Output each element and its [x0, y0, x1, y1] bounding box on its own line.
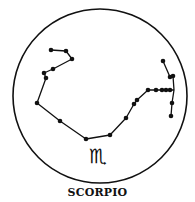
star-icon — [64, 49, 69, 54]
star-points — [35, 48, 176, 142]
star-icon — [169, 114, 174, 119]
star-icon — [171, 74, 176, 79]
star-icon — [160, 88, 165, 93]
star-icon — [146, 88, 151, 93]
star-icon — [44, 76, 49, 81]
star-icon — [35, 101, 40, 106]
star-icon — [135, 98, 140, 103]
star-icon — [49, 48, 54, 53]
star-icon — [58, 119, 63, 124]
constellation-main-line — [37, 50, 174, 139]
star-icon — [170, 101, 175, 106]
star-icon — [42, 71, 47, 76]
scorpio-symbol-icon: ♏ — [89, 144, 107, 168]
star-icon — [108, 133, 113, 138]
star-icon — [161, 59, 166, 64]
constellation-title: SCORPIO — [0, 186, 195, 199]
star-icon — [124, 116, 129, 121]
star-icon — [164, 88, 169, 93]
star-icon — [51, 67, 56, 72]
star-icon — [154, 88, 159, 93]
constellation-diagram: ♏ — [0, 0, 195, 202]
star-icon — [84, 137, 89, 142]
star-icon — [168, 88, 173, 93]
star-icon — [132, 102, 137, 107]
star-icon — [70, 57, 75, 62]
